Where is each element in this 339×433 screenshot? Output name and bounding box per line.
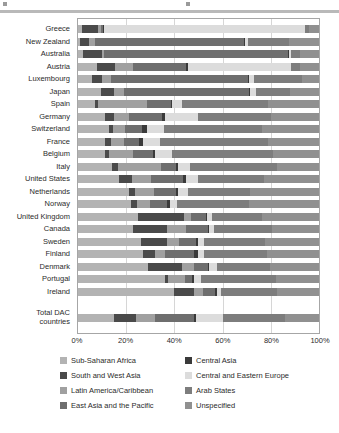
bar-segment	[194, 263, 208, 271]
bar-segment	[172, 100, 182, 108]
bar-segment	[196, 314, 223, 322]
bar-segment	[133, 225, 167, 233]
y-axis-label: Luxembourg	[28, 74, 70, 83]
y-axis-label: Greece	[45, 24, 70, 33]
legend-item-label: East Asia and the Pacific	[71, 401, 154, 410]
bar-segment	[161, 163, 175, 171]
bar-segment	[270, 263, 319, 271]
legend-item-label: South and West Asia	[71, 371, 141, 380]
bar-segment	[138, 213, 184, 221]
bar-row	[78, 138, 319, 146]
bar-segment	[147, 100, 171, 108]
bar-segment	[105, 113, 115, 121]
bar-segment	[212, 213, 263, 221]
page-header-band	[0, 0, 339, 14]
bar-segment	[133, 150, 152, 158]
bar-segment	[178, 188, 188, 196]
bar-segment	[256, 88, 290, 96]
legend-item[interactable]: Central Asia	[185, 354, 289, 367]
legend-swatch-icon	[60, 387, 67, 394]
bar-segment	[177, 200, 249, 208]
x-axis-tick-label: 20%	[118, 336, 133, 345]
bar-row	[78, 150, 319, 158]
y-axis-label: Portugal	[42, 274, 70, 283]
bar-segment	[273, 150, 319, 158]
bar-segment	[277, 288, 319, 296]
x-axis-tick-label: 0%	[72, 336, 83, 345]
legend-item[interactable]: Unspecified	[185, 399, 289, 412]
bar-segment	[160, 138, 268, 146]
bar-segment	[198, 113, 270, 121]
legend-swatch-icon	[60, 357, 67, 364]
bar-segment	[164, 125, 263, 133]
bar-row	[78, 200, 319, 208]
bar-segment	[124, 88, 249, 96]
bar-segment	[250, 188, 319, 196]
bar-segment	[182, 100, 269, 108]
legend-item[interactable]: Arab States	[185, 384, 289, 397]
legend-item-label: Central Asia	[196, 356, 236, 365]
x-axis-tick-label: 40%	[167, 336, 182, 345]
bar-segment	[186, 175, 198, 183]
bar-segment	[155, 150, 172, 158]
bar-segment	[97, 63, 115, 71]
bar-row	[78, 175, 319, 183]
bar-segment	[165, 250, 194, 258]
y-axis-label: Norway	[45, 199, 70, 208]
bar-segment	[129, 113, 163, 121]
bar-segment	[170, 200, 177, 208]
bar-segment	[136, 314, 155, 322]
legend-column-left: Sub-Saharan AfricaSouth and West AsiaLat…	[60, 354, 154, 414]
bar-segment	[78, 125, 109, 133]
bar-segment	[143, 138, 160, 146]
bar-segment	[102, 75, 110, 83]
bar-segment	[78, 88, 101, 96]
bar-segment	[309, 25, 319, 33]
bar-segment	[203, 288, 215, 296]
legend-item[interactable]: East Asia and the Pacific	[60, 399, 154, 412]
legend-item-label: Unspecified	[196, 401, 235, 410]
bar-segment	[78, 63, 97, 71]
y-axis-label: Netherlands	[30, 187, 70, 196]
y-axis-label: Spain	[51, 99, 70, 108]
legend-item[interactable]: Central and Eastern Europe	[185, 369, 289, 382]
bar-segment	[179, 238, 196, 246]
bar-segment	[214, 225, 272, 233]
bar-segment	[198, 175, 263, 183]
bar-segment	[221, 288, 276, 296]
legend-item-label: Latin America/Caribbean	[71, 386, 153, 395]
bar-segment	[254, 75, 302, 83]
bar-segment	[285, 314, 319, 322]
legend-swatch-icon	[60, 372, 67, 379]
bar-row	[78, 225, 319, 233]
legend-swatch-icon	[185, 357, 192, 364]
bar-row	[78, 263, 319, 271]
bar-segment	[82, 25, 99, 33]
bar-segment	[114, 88, 124, 96]
bar-segment	[264, 175, 319, 183]
y-axis-label: Finland	[45, 249, 70, 258]
bar-segment	[191, 213, 205, 221]
legend-swatch-icon	[185, 387, 192, 394]
bar-segment	[124, 138, 140, 146]
bar-segment	[78, 314, 114, 322]
bar-segment	[98, 100, 146, 108]
bar-segment	[78, 150, 105, 158]
bar-row	[78, 314, 319, 322]
bar-row	[78, 250, 319, 258]
legend-item[interactable]: South and West Asia	[60, 369, 154, 382]
legend-item[interactable]: Latin America/Caribbean	[60, 384, 154, 397]
legend-swatch-icon	[185, 402, 192, 409]
bar-segment	[125, 125, 142, 133]
bar-segment	[209, 263, 216, 271]
bar-segment	[178, 163, 190, 171]
bar-segment	[78, 288, 174, 296]
legend-item[interactable]: Sub-Saharan Africa	[60, 354, 154, 367]
y-axis-label: Belgium	[43, 149, 70, 158]
legend-item-label: Central and Eastern Europe	[196, 371, 289, 380]
bar-segment	[201, 275, 276, 283]
y-axis-label: United Kingdom	[17, 212, 70, 221]
bar-segment	[186, 225, 208, 233]
y-axis-label: Denmark	[40, 262, 70, 271]
bar-segment	[188, 63, 292, 71]
